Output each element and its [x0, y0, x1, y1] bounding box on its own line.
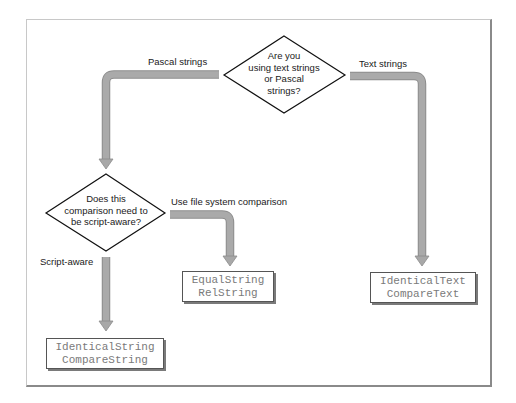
text-strings-arrow — [350, 76, 429, 266]
edge-label-script-aware: Script-aware — [40, 257, 93, 267]
routine-identicaltext: IdenticalText — [380, 275, 466, 288]
routine-comparetext: CompareText — [387, 288, 460, 301]
script-aware-arrow — [99, 257, 113, 331]
edge-label-pascal-strings: Pascal strings — [148, 57, 207, 67]
routine-comparestring: CompareString — [62, 354, 148, 367]
routine-identicalstring: IdenticalString — [55, 341, 154, 354]
result-box-text-routines: IdenticalText CompareText — [370, 272, 476, 303]
file-system-arrow — [170, 215, 237, 267]
edge-label-file-system: Use file system comparison — [171, 197, 287, 207]
decision-text-text-or-pascal: Are you using text strings or Pascal str… — [234, 50, 334, 96]
routine-equalstring: EqualString — [192, 274, 265, 287]
pascal-strings-arrow — [99, 75, 219, 170]
result-box-script-aware-routines: IdenticalString CompareString — [46, 338, 164, 369]
edge-label-text-strings: Text strings — [359, 59, 407, 69]
decision-text-script-aware: Does this comparison need to be script-a… — [50, 193, 162, 228]
result-box-file-system-routines: EqualString RelString — [182, 271, 274, 302]
routine-relstring: RelString — [198, 287, 257, 300]
